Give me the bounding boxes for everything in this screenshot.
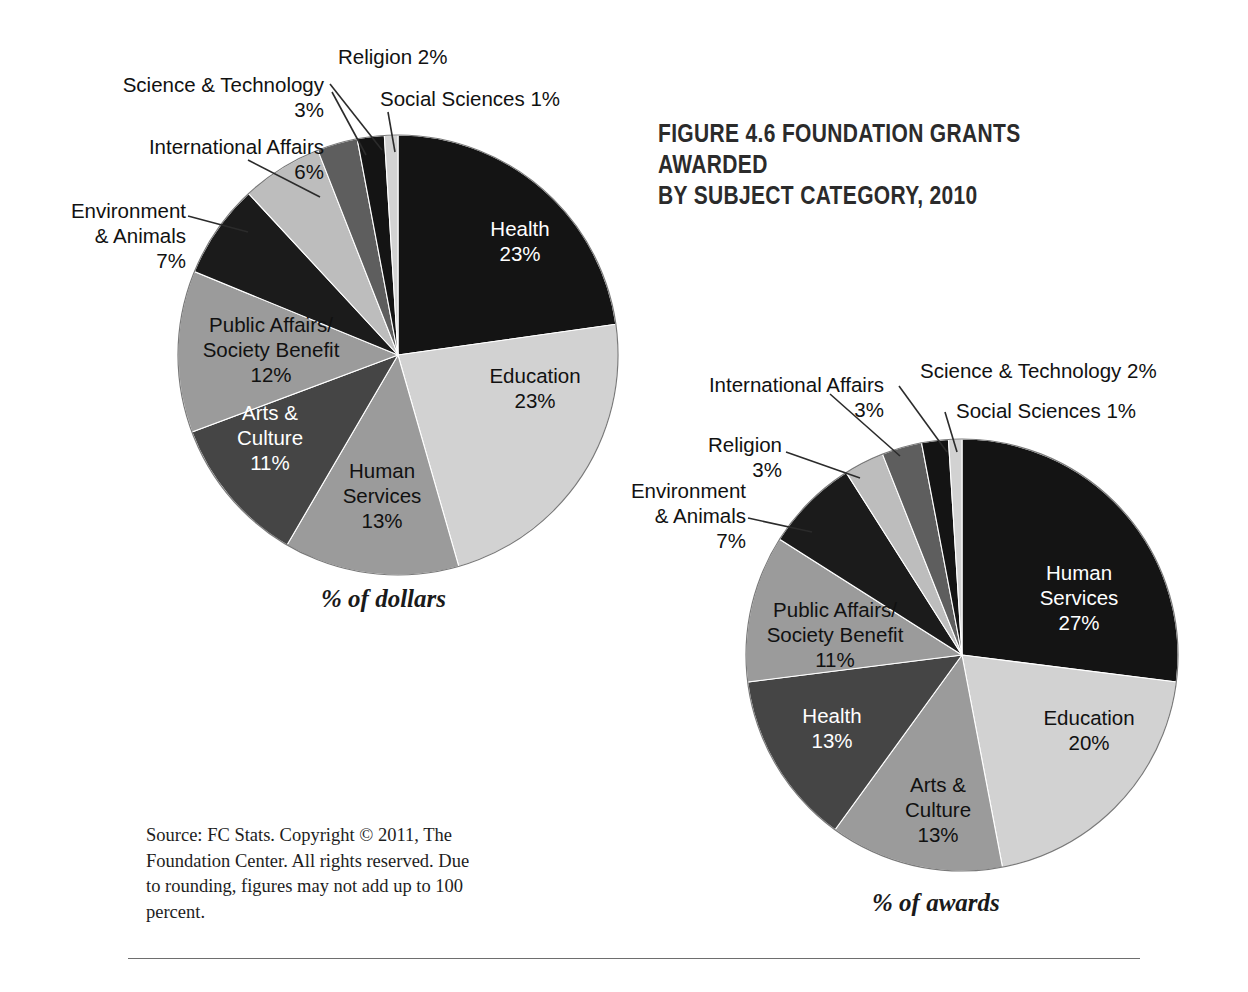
callout-science-technology-awards: Science & Technology 2% [920, 358, 1220, 383]
callout-international-affairs-awards: International Affairs 3% [616, 372, 884, 422]
pie-slice-human-services-awards[interactable] [962, 439, 1178, 682]
source-note: Source: FC Stats. Copyright © 2011, The … [146, 823, 476, 925]
caption-awards: % of awards [872, 889, 1000, 917]
leader-line-religion-awards [786, 452, 860, 478]
callout-environment-animals-awards: Environment & Animals 7% [590, 478, 746, 553]
bottom-rule [128, 958, 1140, 959]
callout-social-sciences-awards: Social Sciences 1% [956, 398, 1236, 423]
pie-awards-slice-group [746, 439, 1178, 871]
figure-canvas: FIGURE 4.6 FOUNDATION GRANTS AWARDED BY … [0, 0, 1248, 992]
callout-religion-awards: Religion 3% [616, 432, 782, 482]
